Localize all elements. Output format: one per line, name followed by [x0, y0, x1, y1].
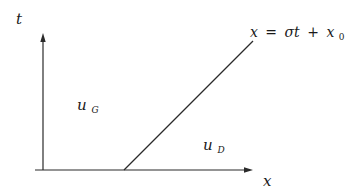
uG-subscript: G: [91, 105, 98, 115]
eq-lhs-x: x: [250, 24, 258, 40]
left-state-label: u G: [77, 96, 99, 115]
t-axis-label: t: [16, 10, 23, 28]
eq-x0-base: x: [326, 24, 334, 40]
uD-subscript: D: [216, 145, 224, 155]
eq-x0-subscript: 0: [339, 32, 345, 42]
shock-equation-label: x = σt + x 0: [250, 24, 345, 42]
x-axis-label: x: [263, 172, 272, 190]
t-axis-arrowhead-icon: [40, 33, 45, 42]
shock-line: [124, 41, 253, 170]
eq-plus: +: [307, 24, 319, 40]
right-state-label: u D: [203, 136, 225, 155]
eq-sigma-t: σt: [285, 24, 301, 40]
x-axis-arrowhead-icon: [244, 167, 253, 172]
eq-equals: =: [265, 24, 277, 40]
uD-base: u: [203, 136, 213, 154]
uG-base: u: [77, 96, 87, 114]
shock-diagram: t x x = σt + x 0 u G u D: [0, 0, 345, 196]
